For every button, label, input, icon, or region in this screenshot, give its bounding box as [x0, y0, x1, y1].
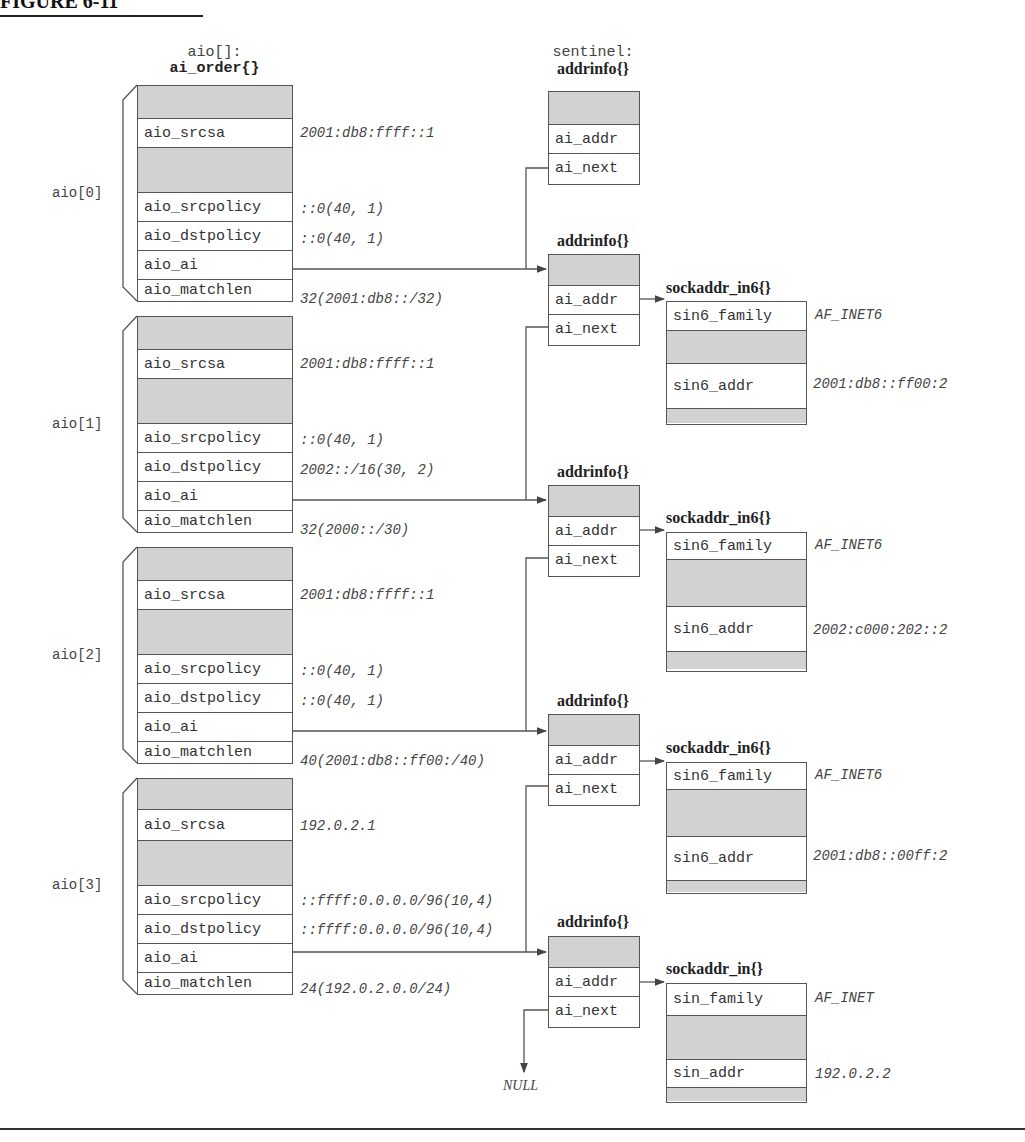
field-ai-addr: ai_addr: [549, 286, 639, 315]
addrinfo-struct-2: ai_addr ai_next: [548, 485, 640, 577]
value-addr: 2001:db8::00ff:2: [813, 848, 947, 864]
value-srcpolicy: ::0(40, 1): [300, 663, 384, 679]
field-aio-srcpolicy: aio_srcpolicy: [138, 886, 292, 915]
field-family: sin6_family: [667, 533, 806, 560]
field-aio-dstpolicy: aio_dstpolicy: [138, 915, 292, 944]
sentinel-addrinfo: ai_addr ai_next: [548, 91, 640, 185]
field-ai-addr: ai_addr: [549, 517, 639, 546]
padding-field: [138, 317, 292, 350]
padding-field: [138, 379, 292, 424]
field-aio-srcpolicy: aio_srcpolicy: [138, 655, 292, 684]
field-aio-ai: aio_ai: [138, 713, 292, 742]
sockaddr-struct-4: sin_family sin_addr: [666, 983, 807, 1103]
field-ai-addr: ai_addr: [549, 125, 639, 154]
value-dstpolicy: ::0(40, 1): [300, 231, 384, 247]
padding-field: [667, 331, 806, 364]
sockaddr-title: sockaddr_in6{}: [666, 510, 771, 528]
padding-field: [667, 652, 806, 669]
field-aio-matchlen: aio_matchlen: [138, 280, 292, 300]
aio-array-title-line2: ai_order{}: [137, 61, 292, 77]
field-aio-dstpolicy: aio_dstpolicy: [138, 453, 292, 482]
value-family: AF_INET6: [815, 307, 882, 323]
sentinel-title: sentinel: addrinfo{}: [538, 45, 648, 79]
field-addr: sin6_addr: [667, 837, 806, 881]
addrinfo-title: addrinfo{}: [538, 233, 648, 251]
padding-field: [138, 841, 292, 886]
field-ai-addr: ai_addr: [549, 968, 639, 997]
field-aio-srcsa: aio_srcsa: [138, 350, 292, 379]
field-family: sin_family: [667, 984, 806, 1016]
value-matchlen: 24(192.0.2.0.0/24): [300, 981, 451, 997]
aio-entry-label: aio[3]: [52, 877, 102, 893]
aio-array-title: aio[]: ai_order{}: [137, 45, 292, 77]
value-srcpolicy: ::0(40, 1): [300, 201, 384, 217]
field-aio-matchlen: aio_matchlen: [138, 511, 292, 531]
field-addr: sin6_addr: [667, 607, 806, 652]
aio-entry-label: aio[2]: [52, 647, 102, 663]
field-addr: sin_addr: [667, 1060, 806, 1088]
padding-field: [667, 1088, 806, 1101]
sockaddr-struct-2: sin6_family sin6_addr: [666, 532, 807, 672]
value-srcsa: 2001:db8:ffff::1: [300, 356, 434, 372]
sockaddr-struct-1: sin6_family sin6_addr: [666, 301, 807, 425]
value-matchlen: 40(2001:db8::ff00:/40): [300, 753, 485, 769]
padding-field: [667, 881, 806, 892]
value-family: AF_INET: [815, 990, 874, 1006]
padding-field: [549, 486, 639, 517]
null-label: NULL: [503, 1078, 538, 1094]
field-ai-next: ai_next: [549, 546, 639, 575]
field-ai-addr: ai_addr: [549, 746, 639, 775]
sockaddr-struct-3: sin6_family sin6_addr: [666, 762, 807, 894]
aio-entry-label: aio[1]: [52, 416, 102, 432]
field-ai-next: ai_next: [549, 997, 639, 1026]
padding-field: [667, 560, 806, 607]
value-dstpolicy: ::0(40, 1): [300, 693, 384, 709]
aio-entry-2: aio_srcsa aio_srcpolicy aio_dstpolicy ai…: [137, 547, 293, 764]
field-aio-matchlen: aio_matchlen: [138, 973, 292, 993]
sockaddr-title: sockaddr_in6{}: [666, 740, 771, 758]
sockaddr-title: sockaddr_in6{}: [666, 280, 771, 298]
value-matchlen: 32(2001:db8::/32): [300, 291, 443, 307]
addrinfo-title: addrinfo{}: [538, 464, 648, 482]
padding-field: [138, 86, 292, 119]
addrinfo-struct-3: ai_addr ai_next: [548, 714, 640, 806]
field-aio-srcpolicy: aio_srcpolicy: [138, 193, 292, 222]
aio-entry-0: aio_srcsa aio_srcpolicy aio_dstpolicy ai…: [137, 85, 293, 302]
value-dstpolicy: 2002::/16(30, 2): [300, 462, 434, 478]
padding-field: [667, 790, 806, 837]
value-srcpolicy: ::ffff:0.0.0.0/96(10,4): [300, 893, 493, 909]
field-aio-srcsa: aio_srcsa: [138, 581, 292, 610]
value-srcsa: 2001:db8:ffff::1: [300, 125, 434, 141]
sentinel-title-line1: sentinel:: [538, 45, 648, 61]
value-addr: 192.0.2.2: [815, 1066, 891, 1082]
field-ai-next: ai_next: [549, 154, 639, 183]
padding-field: [138, 548, 292, 581]
field-aio-srcpolicy: aio_srcpolicy: [138, 424, 292, 453]
field-ai-next: ai_next: [549, 315, 639, 344]
value-dstpolicy: ::ffff:0.0.0.0/96(10,4): [300, 922, 493, 938]
addrinfo-title: addrinfo{}: [538, 693, 648, 711]
value-addr: 2002:c000:202::2: [813, 622, 947, 638]
addrinfo-title: addrinfo{}: [538, 914, 648, 932]
field-aio-srcsa: aio_srcsa: [138, 119, 292, 148]
field-aio-ai: aio_ai: [138, 944, 292, 973]
addrinfo-struct-1: ai_addr ai_next: [548, 254, 640, 346]
field-aio-matchlen: aio_matchlen: [138, 742, 292, 762]
padding-field: [138, 148, 292, 193]
field-addr: sin6_addr: [667, 364, 806, 409]
padding-field: [667, 1016, 806, 1060]
field-family: sin6_family: [667, 763, 806, 790]
addrinfo-struct-4: ai_addr ai_next: [548, 936, 640, 1028]
padding-field: [549, 715, 639, 746]
field-family: sin6_family: [667, 302, 806, 331]
value-srcpolicy: ::0(40, 1): [300, 432, 384, 448]
value-matchlen: 32(2000::/30): [300, 522, 409, 538]
value-srcsa: 192.0.2.1: [300, 818, 376, 834]
field-aio-ai: aio_ai: [138, 251, 292, 280]
padding-field: [549, 255, 639, 286]
field-aio-srcsa: aio_srcsa: [138, 810, 292, 841]
value-addr: 2001:db8::ff00:2: [813, 376, 947, 392]
padding-field: [138, 610, 292, 655]
field-aio-ai: aio_ai: [138, 482, 292, 511]
value-srcsa: 2001:db8:ffff::1: [300, 587, 434, 603]
